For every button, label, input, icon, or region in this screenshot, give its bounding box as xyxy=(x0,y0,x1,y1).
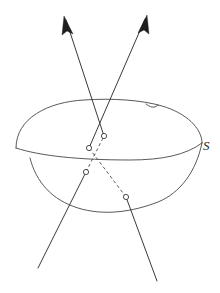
intersection-markers-group xyxy=(83,133,128,199)
arrowhead-up-right-icon xyxy=(138,15,149,34)
surface-lower-hull xyxy=(30,143,202,212)
line-left-lower-segment xyxy=(38,172,86,268)
surface-s-group xyxy=(16,99,202,212)
line-right-upper-segment xyxy=(89,19,145,148)
arrowhead-up-left-icon xyxy=(62,16,73,35)
surface-top-rim xyxy=(16,99,202,148)
line-right-group xyxy=(89,15,157,281)
intersection-point-left-far xyxy=(101,133,106,138)
line-left-hidden-segment xyxy=(86,136,104,172)
surface-equator-line xyxy=(16,143,202,160)
intersection-point-right-far xyxy=(86,145,91,150)
line-left-upper-segment xyxy=(66,20,104,136)
intersection-point-left-near xyxy=(83,169,88,174)
intersection-point-right-near xyxy=(123,194,128,199)
geometry-figure xyxy=(0,0,220,293)
figure-container: S xyxy=(0,0,220,293)
line-left-group xyxy=(38,16,104,268)
line-right-lower-segment xyxy=(126,197,157,281)
surface-label-s: S xyxy=(203,139,210,152)
